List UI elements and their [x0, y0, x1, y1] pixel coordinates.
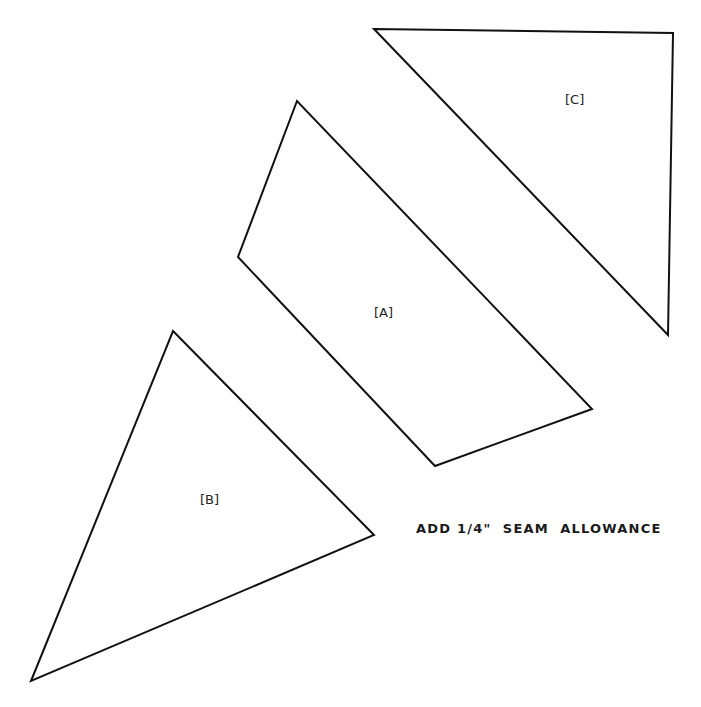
piece-c-outline [374, 29, 673, 335]
pattern-piece-b: [B] [31, 331, 374, 681]
piece-a-outline [238, 101, 592, 466]
pattern-piece-c: [C] [374, 29, 673, 335]
piece-b-label: [B] [200, 492, 219, 507]
pattern-piece-a: [A] [238, 101, 592, 466]
piece-a-label: [A] [374, 305, 393, 320]
seam-allowance-note: ADD 1/4" SEAM ALLOWANCE [416, 521, 661, 536]
quilt-pattern-diagram: [C] [A] [B] [0, 0, 701, 707]
piece-c-label: [C] [565, 92, 584, 107]
